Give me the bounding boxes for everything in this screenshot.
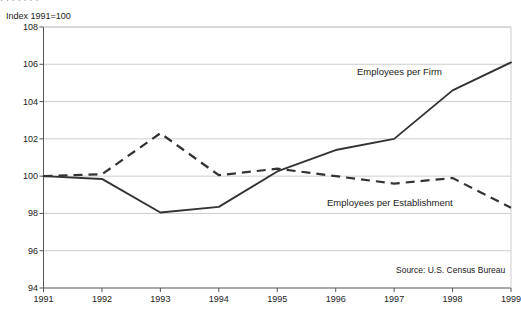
x-axis-tick-labels: 199119921993199419951996199719981999 bbox=[0, 294, 517, 308]
x-axis-tick-1994: 1994 bbox=[209, 294, 229, 304]
x-axis-tick-1999: 1999 bbox=[501, 294, 521, 304]
series-line-employees-per-firm bbox=[44, 62, 512, 212]
gridlines bbox=[44, 27, 512, 251]
x-axis-tick-1995: 1995 bbox=[267, 294, 287, 304]
y-axis-tick-labels: 949698100102104106108 bbox=[8, 0, 38, 311]
y-axis-tick-96: 96 bbox=[12, 246, 38, 256]
y-axis-tick-104: 104 bbox=[12, 97, 38, 107]
y-axis-tick-108: 108 bbox=[12, 22, 38, 32]
y-axis-tick-94: 94 bbox=[12, 283, 38, 293]
source-attribution: Source: U.S. Census Bureau bbox=[396, 265, 505, 275]
x-axis-tick-1993: 1993 bbox=[150, 294, 170, 304]
x-axis-tick-1992: 1992 bbox=[92, 294, 112, 304]
y-axis-tick-98: 98 bbox=[12, 208, 38, 218]
x-axis-tick-1996: 1996 bbox=[326, 294, 346, 304]
cropped-header-text: · · · · · · · bbox=[0, 0, 517, 7]
y-axis-tick-106: 106 bbox=[12, 59, 38, 69]
x-axis-tick-1991: 1991 bbox=[33, 294, 53, 304]
x-axis-tick-1998: 1998 bbox=[443, 294, 463, 304]
x-axis-ticks bbox=[44, 288, 512, 292]
annotation-employees-per-firm: Employees per Firm bbox=[357, 66, 442, 77]
annotation-employees-per-establishment: Employees per Establishment bbox=[327, 197, 453, 208]
y-axis-tick-100: 100 bbox=[12, 171, 38, 181]
y-axis-tick-102: 102 bbox=[12, 134, 38, 144]
y-axis-ticks bbox=[40, 27, 44, 288]
x-axis-tick-1997: 1997 bbox=[384, 294, 404, 304]
